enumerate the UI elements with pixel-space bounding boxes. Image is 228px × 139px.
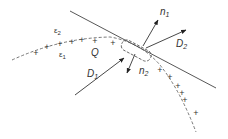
n2-vector-arrow (127, 54, 135, 73)
interface-boundary (12, 37, 196, 132)
d1-vector-arrow (75, 58, 124, 95)
epsilon1-label: ε1 (59, 50, 67, 60)
svg-text:+: + (193, 108, 198, 118)
svg-text:+: + (167, 72, 172, 82)
diagram-canvas: + + + + + + + + + + + + + ε2 ε1 Q D1 D2 … (0, 0, 228, 139)
n1-label: n1 (160, 6, 170, 18)
gaussian-pillbox (120, 38, 153, 63)
n1-vector-arrow (143, 20, 158, 46)
svg-text:+: + (110, 38, 115, 48)
d1-label: D1 (87, 68, 98, 80)
svg-text:+: + (57, 39, 62, 49)
n2-label: n2 (139, 65, 149, 77)
svg-text:+: + (69, 37, 74, 47)
svg-text:+: + (182, 95, 187, 105)
surface-charges: + + + + + + + + + + + + + (33, 35, 198, 118)
svg-text:+: + (33, 48, 38, 58)
svg-text:+: + (92, 36, 97, 46)
d2-label: D2 (176, 38, 187, 50)
svg-text:+: + (44, 42, 49, 52)
svg-text:+: + (157, 65, 162, 75)
svg-text:+: + (79, 35, 84, 45)
epsilon2-label: ε2 (54, 26, 62, 36)
charge-q-label: Q (91, 47, 99, 58)
